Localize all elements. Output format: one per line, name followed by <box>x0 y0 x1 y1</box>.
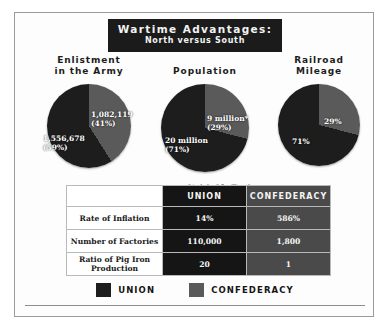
slice-value: 1,082,119 <box>91 110 133 119</box>
page-title: Wartime Advantages: North versus South <box>108 19 282 52</box>
pie-title-railroad-line1: Railroad <box>263 55 375 66</box>
legend-label-union: UNION <box>118 285 155 295</box>
pie-chart-enlistment: Enlistment in the Army 1,082,119 (41%) 1… <box>27 55 151 168</box>
table-row: Number of Factories 110,000 1,800 <box>67 230 331 253</box>
slice-value: 1,556,678 <box>43 134 85 143</box>
row-value-factories-union: 110,000 <box>163 230 247 253</box>
infographic-frame: Wartime Advantages: North versus South E… <box>14 12 374 317</box>
row-label-inflation: Rate of Inflation <box>67 207 163 230</box>
title-line-1: Wartime Advantages: <box>108 23 282 35</box>
table-header-union: UNION <box>163 186 247 207</box>
slice-percent: (41%) <box>91 119 116 128</box>
slice-percent: (59%) <box>43 143 68 152</box>
pie-chart-population: Population 9 million* (29%) 20 million (… <box>143 55 267 172</box>
pie-chart-railroad: Railroad Mileage 29% 71% <box>263 55 375 166</box>
pie-title-enlistment-line2: in the Army <box>27 66 151 77</box>
pie-population-slice-confederacy: 9 million* (29%) <box>207 114 253 132</box>
row-label-factories: Number of Factories <box>67 230 163 253</box>
title-line-2: North versus South <box>108 35 282 46</box>
table-header-confederacy: CONFEDERACY <box>247 186 331 207</box>
legend-item-union: UNION <box>96 283 155 297</box>
pie-title-population: Population <box>143 66 267 77</box>
comparison-table: UNION CONFEDERACY Rate of Inflation 14% … <box>66 185 331 276</box>
row-label-line-2: Production <box>91 264 138 273</box>
row-label-line-1: Ratio of Pig Iron <box>79 255 150 264</box>
legend-label-confederacy: CONFEDERACY <box>211 285 294 295</box>
slice-percent: (29%) <box>207 123 232 132</box>
pie-title-enlistment-line1: Enlistment <box>27 55 151 66</box>
table-corner-cell <box>67 186 163 207</box>
row-value-inflation-confederacy: 586% <box>247 207 331 230</box>
row-label-pig-iron: Ratio of Pig Iron Production <box>67 253 163 276</box>
pie-charts-row: Enlistment in the Army 1,082,119 (41%) 1… <box>15 55 375 187</box>
pie-population-slice-union: 20 million (71%) <box>165 136 213 154</box>
pie-title-railroad-line2: Mileage <box>263 66 375 77</box>
row-value-inflation-union: 14% <box>163 207 247 230</box>
legend-item-confederacy: CONFEDERACY <box>189 283 294 297</box>
row-value-pig-iron-confederacy: 1 <box>247 253 331 276</box>
pie-railroad-slice-confederacy: 29% <box>324 117 352 126</box>
slice-value: 9 million* <box>207 114 249 123</box>
pie-enlistment-slice-union: 1,556,678 (59%) <box>43 134 91 152</box>
pie-railroad-slice-union: 71% <box>292 137 320 146</box>
slice-percent: (71%) <box>165 145 190 154</box>
row-value-factories-confederacy: 1,800 <box>247 230 331 253</box>
row-value-pig-iron-union: 20 <box>163 253 247 276</box>
table-header-row: UNION CONFEDERACY <box>67 186 331 207</box>
chart-legend: UNION CONFEDERACY <box>15 283 375 297</box>
table-row: Ratio of Pig Iron Production 20 1 <box>67 253 331 276</box>
slice-value: 20 million <box>165 136 208 145</box>
table-row: Rate of Inflation 14% 586% <box>67 207 331 230</box>
legend-swatch-confederacy-icon <box>189 283 204 297</box>
legend-divider <box>25 305 365 306</box>
legend-swatch-union-icon <box>96 283 111 297</box>
pie-enlistment-slice-confederacy: 1,082,119 (41%) <box>91 110 137 128</box>
